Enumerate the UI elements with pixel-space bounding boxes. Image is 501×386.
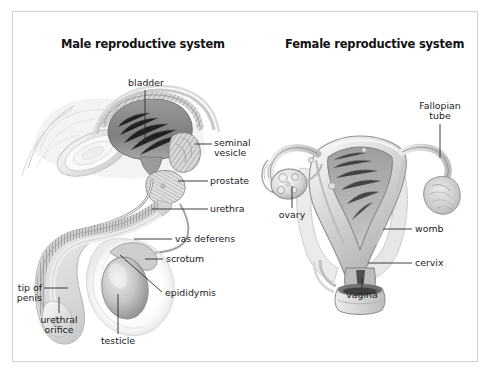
label-urethral-orifice-line2: orifice — [30, 325, 88, 336]
label-fallopian-tube-line2: tube — [408, 111, 472, 122]
figure-canvas: Male reproductive system Female reproduc… — [0, 0, 501, 386]
label-vagina: vagina — [338, 290, 386, 301]
label-urethra: urethra — [210, 204, 245, 215]
leader-epididymis — [120, 255, 162, 292]
label-epididymis: epididymis — [165, 288, 216, 299]
label-scrotum: scrotum — [166, 254, 204, 265]
label-ovary: ovary — [270, 210, 314, 221]
label-bladder: bladder — [122, 78, 170, 89]
label-womb: womb — [415, 224, 444, 235]
label-seminal-vesicle-line2: vesicle — [214, 148, 246, 159]
label-cervix: cervix — [415, 258, 443, 269]
label-testicle: testicle — [94, 336, 142, 347]
label-prostate: prostate — [210, 176, 249, 187]
label-tip-of-penis-line2: penis — [0, 293, 42, 304]
label-vas-deferens: vas deferens — [175, 234, 235, 245]
